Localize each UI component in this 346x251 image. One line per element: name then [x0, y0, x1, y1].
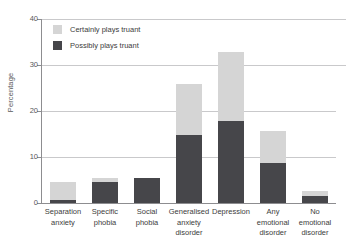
bar-stack — [302, 191, 328, 203]
bar-segment-possibly[interactable] — [218, 121, 244, 203]
x-axis-label: Noemotionaldisorder — [290, 207, 340, 239]
x-axis-label-line: disorder — [290, 228, 340, 239]
bar-group[interactable] — [176, 19, 202, 203]
stacked-bar-chart: Percentage 010203040 Certainly plays tru… — [0, 0, 346, 251]
bar-group[interactable] — [260, 19, 286, 203]
legend-label-certainly: Certainly plays truant — [70, 25, 140, 34]
legend-item-possibly[interactable]: Possibly plays truant — [53, 41, 140, 50]
bar-segment-possibly[interactable] — [302, 196, 328, 203]
bar-segment-possibly[interactable] — [92, 182, 118, 203]
y-tick-label-10: 10 — [20, 153, 38, 161]
y-axis-title: Percentage — [6, 61, 15, 125]
bar-stack — [260, 131, 286, 203]
y-tick-label-30: 30 — [20, 61, 38, 69]
bar-stack — [50, 182, 76, 203]
legend-item-certainly[interactable]: Certainly plays truant — [53, 25, 140, 34]
y-tick-label-20: 20 — [20, 107, 38, 115]
x-axis-labels: SeparationanxietySpecificphobiaSocialpho… — [42, 207, 336, 251]
bar-stack — [134, 178, 160, 203]
bar-segment-certainly[interactable] — [176, 84, 202, 135]
bar-segment-certainly[interactable] — [260, 131, 286, 163]
bar-stack — [218, 52, 244, 203]
bar-group[interactable] — [302, 19, 328, 203]
legend-label-possibly: Possibly plays truant — [70, 41, 139, 50]
bar-segment-certainly[interactable] — [218, 52, 244, 121]
y-tick-label-0: 0 — [20, 199, 38, 207]
bar-segment-possibly[interactable] — [50, 200, 76, 203]
x-axis-label-line: disorder — [164, 228, 214, 239]
bar-group[interactable] — [218, 19, 244, 203]
bar-stack — [92, 178, 118, 203]
legend-swatch-possibly — [53, 41, 62, 50]
bar-segment-possibly[interactable] — [134, 178, 160, 203]
legend-swatch-certainly — [53, 25, 62, 34]
gridline-0 — [41, 203, 336, 204]
chart-legend: Certainly plays truantPossibly plays tru… — [53, 25, 140, 57]
bar-segment-possibly[interactable] — [176, 135, 202, 203]
bar-segment-certainly[interactable] — [50, 182, 76, 199]
x-axis-label-line: anxiety — [164, 218, 214, 229]
y-tick-label-40: 40 — [20, 15, 38, 23]
bar-stack — [176, 84, 202, 203]
bar-segment-possibly[interactable] — [260, 163, 286, 203]
x-axis-label-line: No — [290, 207, 340, 218]
x-axis-label-line: emotional — [290, 218, 340, 229]
